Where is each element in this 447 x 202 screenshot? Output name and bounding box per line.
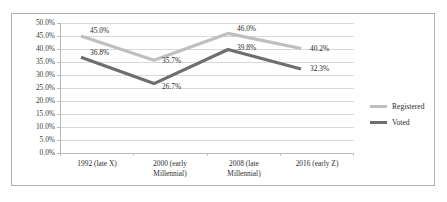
ytick-label-45: 45.0% (12, 32, 55, 40)
chart-legend: Registered Voted (370, 98, 442, 130)
xtick-mark-2 (207, 153, 208, 156)
data-label-voted-2016: 32.3% (310, 65, 329, 73)
series-lines (60, 23, 354, 153)
xtick-mark-0 (60, 153, 61, 156)
xtick-label-2000: 2000 (early Millennial) (133, 159, 207, 178)
ytick-label-40: 40.0% (12, 45, 55, 53)
legend-item-voted[interactable]: Voted (370, 114, 442, 130)
ytick-label-0: 0.0% (12, 149, 55, 157)
ytick-label-20: 20.0% (12, 97, 55, 105)
data-label-registered-1992: 45.0% (90, 27, 109, 35)
ytick-label-50: 50.0% (12, 19, 55, 27)
ytick-label-5: 5.0% (12, 136, 55, 144)
series-line-registered (81, 33, 301, 60)
xtick-label-2008-line1: 2008 (late (229, 159, 259, 168)
data-label-voted-1992: 36.8% (90, 49, 109, 57)
data-label-voted-2008: 39.8% (237, 44, 256, 52)
legend-label-registered: Registered (392, 102, 424, 111)
xtick-label-1992-text: 1992 (late X) (77, 159, 116, 168)
xtick-mark-4 (353, 153, 354, 156)
data-label-registered-2000: 35.7% (162, 57, 181, 65)
data-label-registered-2008: 46.0% (237, 25, 256, 33)
xtick-mark-3 (280, 153, 281, 156)
legend-item-registered[interactable]: Registered (370, 98, 442, 114)
xtick-label-2008: 2008 (late Millennial) (207, 159, 281, 178)
ytick-label-15: 15.0% (12, 110, 55, 118)
ytick-label-35: 35.0% (12, 58, 55, 66)
xtick-label-2000-line1: 2000 (early (153, 159, 187, 168)
ytick-label-10: 10.0% (12, 123, 55, 131)
xtick-label-2008-line2: Millennial) (227, 169, 260, 178)
legend-label-voted: Voted (392, 118, 410, 127)
data-label-registered-2016: 40.2% (310, 45, 329, 53)
xtick-label-1992: 1992 (late X) (60, 159, 134, 169)
chart-container: 45.0% 35.7% 46.0% 40.2% 36.8% 26.7% 39.8… (11, 13, 435, 186)
series-line-voted (81, 50, 301, 84)
legend-swatch-registered (370, 105, 387, 108)
plot-area: 45.0% 35.7% 46.0% 40.2% 36.8% 26.7% 39.8… (60, 23, 354, 153)
xtick-mark-1 (133, 153, 134, 156)
data-label-voted-2000: 26.7% (162, 83, 181, 91)
xtick-label-2016-text: 2016 (early Z) (296, 159, 339, 168)
legend-swatch-voted (370, 121, 387, 124)
ytick-label-30: 30.0% (12, 71, 55, 79)
ytick-label-25: 25.0% (12, 84, 55, 92)
xtick-label-2016: 2016 (early Z) (280, 159, 354, 169)
xtick-label-2000-line2: Millennial) (153, 169, 186, 178)
